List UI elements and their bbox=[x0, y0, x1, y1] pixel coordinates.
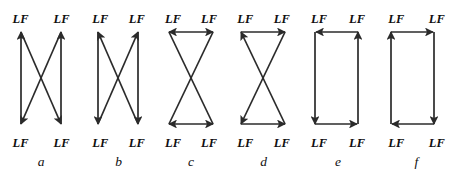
bottom-label-row: LF LF bbox=[155, 133, 227, 151]
lf-label: LF bbox=[165, 136, 181, 150]
lf-label: LF bbox=[237, 136, 253, 150]
diagram-panel-b: LF LF bbox=[82, 0, 155, 186]
diagram-art-f bbox=[376, 24, 457, 132]
diagram-art-b bbox=[82, 24, 155, 132]
lf-label: LF bbox=[388, 136, 404, 150]
diagram-svg-f bbox=[376, 24, 457, 132]
diagram-svg-b bbox=[82, 24, 155, 132]
lf-label-bottom-left-slot: LF bbox=[227, 133, 264, 151]
lf-label-bottom-right-slot: LF bbox=[264, 133, 301, 151]
diagram-art-d bbox=[227, 24, 300, 132]
diagram-svg-e bbox=[300, 24, 376, 132]
diagram-art-a bbox=[0, 24, 82, 132]
diagram-panel-list: LF LF bbox=[0, 0, 457, 186]
lf-label-bottom-left-slot: LF bbox=[376, 133, 417, 151]
lf-label: LF bbox=[54, 136, 70, 150]
lf-label-bottom-right-slot: LF bbox=[417, 133, 457, 151]
lf-label-bottom-right-slot: LF bbox=[191, 133, 227, 151]
diagram-art-c bbox=[155, 24, 227, 132]
lf-label-bottom-left-slot: LF bbox=[0, 133, 41, 151]
bottom-label-row: LF LF bbox=[376, 133, 457, 151]
panel-caption: a bbox=[0, 154, 82, 170]
panel-caption: b bbox=[82, 154, 155, 170]
lf-label: LF bbox=[311, 136, 327, 150]
diagram-svg-c bbox=[155, 24, 227, 132]
lf-label-bottom-left-slot: LF bbox=[155, 133, 191, 151]
diagram-svg-a bbox=[0, 24, 82, 132]
diagram-panel-d: LF LF bbox=[227, 0, 300, 186]
diagram-svg-d bbox=[227, 24, 300, 132]
diagram-panel-c: LF LF bbox=[155, 0, 227, 186]
lf-label: LF bbox=[13, 136, 29, 150]
panel-caption: d bbox=[227, 154, 300, 170]
bottom-label-row: LF LF bbox=[300, 133, 376, 151]
diagram-panel-a: LF LF bbox=[0, 0, 82, 186]
panel-caption: c bbox=[155, 154, 227, 170]
lf-label: LF bbox=[349, 136, 365, 150]
diagram-art-e bbox=[300, 24, 376, 132]
lf-label: LF bbox=[129, 136, 145, 150]
lf-label-bottom-right-slot: LF bbox=[338, 133, 376, 151]
figure-root: LF LF bbox=[0, 0, 457, 186]
panel-caption: f bbox=[376, 154, 457, 170]
bottom-label-row: LF LF bbox=[0, 133, 82, 151]
lf-label: LF bbox=[429, 136, 445, 150]
lf-label-bottom-right-slot: LF bbox=[119, 133, 156, 151]
panel-caption: e bbox=[300, 154, 376, 170]
lf-label: LF bbox=[201, 136, 217, 150]
lf-label-bottom-left-slot: LF bbox=[300, 133, 338, 151]
bottom-label-row: LF LF bbox=[82, 133, 155, 151]
diagram-panel-f: LF LF bbox=[376, 0, 457, 186]
lf-label-bottom-right-slot: LF bbox=[41, 133, 82, 151]
lf-label: LF bbox=[92, 136, 108, 150]
lf-label-bottom-left-slot: LF bbox=[82, 133, 119, 151]
lf-label: LF bbox=[274, 136, 290, 150]
bottom-label-row: LF LF bbox=[227, 133, 300, 151]
diagram-panel-e: LF LF bbox=[300, 0, 376, 186]
